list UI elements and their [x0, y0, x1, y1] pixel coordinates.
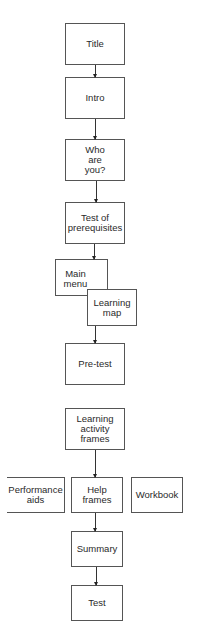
- node-summary: Summary: [71, 531, 123, 567]
- node-help-frames-label: Help frames: [82, 485, 112, 505]
- node-learning-map-label: Learning map: [90, 298, 134, 318]
- node-workbook: Workbook: [131, 477, 183, 513]
- node-test: Test: [71, 585, 123, 621]
- arrow-summary-to-test: [96, 567, 97, 585]
- arrow-intro-to-who-are-you: [95, 119, 96, 139]
- node-test-label: Test: [88, 598, 105, 608]
- node-intro-label: Intro: [85, 93, 104, 103]
- arrow-learning-map-to-pre-test: [95, 326, 96, 343]
- node-test-of-prerequisites-label: Test of prerequisites: [68, 213, 122, 233]
- node-title: Title: [65, 23, 125, 65]
- arrow-test-of-prerequisites-to-main-menu: [94, 244, 95, 259]
- node-learning-activity-frames: Learning activity frames: [65, 408, 125, 450]
- node-title-label: Title: [86, 39, 104, 49]
- node-pre-test: Pre-test: [65, 343, 125, 385]
- node-performance-aids: Performance aids: [7, 477, 65, 513]
- node-learning-activity-frames-label: Learning activity frames: [76, 414, 114, 444]
- node-test-of-prerequisites: Test of prerequisites: [65, 202, 125, 244]
- node-who-are-you: Who are you?: [65, 139, 125, 181]
- arrow-who-are-you-to-test-of-prerequisites: [96, 181, 97, 202]
- node-summary-label: Summary: [77, 544, 118, 554]
- node-help-frames: Help frames: [71, 477, 123, 513]
- arrow-help-frames-to-summary: [95, 513, 96, 531]
- node-intro: Intro: [65, 77, 125, 119]
- node-performance-aids-label: Performance aids: [7, 485, 64, 505]
- node-workbook-label: Workbook: [136, 490, 179, 500]
- node-main-menu-label: Main menu: [58, 269, 93, 289]
- node-who-are-you-label: Who are you?: [78, 145, 112, 175]
- arrow-title-to-intro: [95, 65, 96, 77]
- node-pre-test-label: Pre-test: [78, 359, 111, 369]
- arrow-learning-activity-to-help-frames: [95, 450, 96, 477]
- node-learning-map: Learning map: [87, 289, 137, 326]
